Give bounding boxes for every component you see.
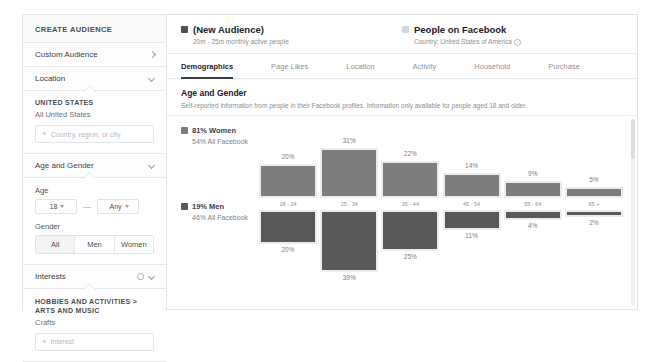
chart-column: 5%65 +2% — [565, 124, 623, 305]
men-bar-benchmark — [443, 210, 501, 230]
women-bar[interactable] — [261, 166, 315, 196]
tab-household[interactable]: Household — [474, 54, 510, 78]
men-bar-group: 2% — [565, 210, 623, 286]
tab-activity[interactable]: Activity — [413, 54, 437, 78]
men-bar[interactable] — [506, 212, 560, 218]
women-bar-benchmark — [320, 148, 378, 198]
section-title: Age and Gender — [181, 88, 623, 98]
chevron-down-icon — [149, 75, 156, 82]
sidebar-section-interests[interactable]: Interests — [23, 265, 166, 289]
chevron-down-icon — [149, 273, 156, 280]
audience-color-swatch — [181, 26, 188, 33]
women-bar-group: 14% — [443, 124, 501, 198]
chevron-down-icon — [149, 162, 156, 169]
chevron-right-icon — [149, 51, 156, 58]
age-max-select[interactable]: Any — [97, 199, 139, 214]
interest-path-line-1: HOBBIES AND ACTIVITIES > — [35, 297, 154, 306]
women-bar-benchmark — [504, 181, 562, 198]
women-bar[interactable] — [506, 183, 560, 196]
gender-option-all[interactable]: All — [36, 236, 75, 253]
age-axis-label: 55 - 64 — [524, 198, 541, 210]
chart-column: 20%18 - 2420% — [259, 124, 317, 305]
women-bar-group: 22% — [381, 124, 439, 198]
age-label: Age — [35, 186, 154, 195]
interest-input[interactable]: + Interest — [35, 333, 154, 351]
women-bar-value: 20% — [281, 154, 294, 161]
interests-label: Interests — [35, 272, 66, 281]
men-bar-benchmark — [320, 210, 378, 272]
location-input[interactable]: + Country, region, or city — [35, 125, 154, 143]
comparison-subtitle-text: Country: United States of America — [414, 38, 512, 45]
women-bar-group: 5% — [565, 124, 623, 198]
interest-input-placeholder: Interest — [51, 338, 74, 345]
comparison-color-swatch — [402, 26, 409, 33]
audience-title-row: (New Audience) — [181, 24, 402, 35]
women-color-swatch — [181, 127, 188, 134]
custom-audience-label: Custom Audience — [35, 50, 98, 59]
men-bar-benchmark — [565, 210, 623, 217]
comparison-title: People on Facebook — [414, 24, 506, 35]
gear-icon[interactable] — [137, 273, 144, 280]
legend-women-subtitle: 54% All Facebook — [181, 138, 248, 145]
age-min-select[interactable]: 18 — [35, 199, 77, 214]
men-bar-benchmark — [504, 210, 562, 220]
age-min-value: 18 — [50, 203, 58, 210]
women-bar[interactable] — [383, 163, 437, 196]
info-icon[interactable]: i — [514, 39, 521, 46]
sidebar-title: CREATE AUDIENCE — [23, 15, 166, 43]
women-bar-value: 5% — [589, 177, 598, 184]
women-bar-value: 22% — [404, 151, 417, 158]
men-bar-value: 39% — [343, 275, 356, 282]
tab-demographics[interactable]: Demographics — [181, 54, 233, 78]
women-bar[interactable] — [322, 150, 376, 196]
location-panel: UNITED STATES All United States + Countr… — [23, 91, 166, 154]
men-color-swatch — [181, 203, 188, 210]
gender-option-men[interactable]: Men — [75, 236, 114, 253]
men-bar-group: 20% — [259, 210, 317, 286]
women-bar-benchmark — [565, 187, 623, 198]
create-audience-sidebar: CREATE AUDIENCE Custom Audience Location… — [23, 15, 167, 309]
age-axis-label: 25 - 34 — [341, 198, 358, 210]
main-panel: (New Audience) 20m - 25m monthly active … — [167, 15, 637, 309]
women-bar-benchmark — [259, 164, 317, 198]
gender-segmented-control: All Men Women — [35, 235, 154, 254]
location-input-placeholder: Country, region, or city — [51, 131, 121, 138]
legend-women-row: 81% Women — [181, 126, 248, 135]
age-axis-label: 35 - 44 — [402, 198, 419, 210]
audience-summary: (New Audience) 20m - 25m monthly active … — [181, 24, 402, 46]
age-max-value: Any — [109, 203, 121, 210]
age-axis-label: 18 - 24 — [279, 198, 296, 210]
legend-men-title: 19% Men — [192, 202, 224, 211]
comparison-summary: People on Facebook Country: United State… — [402, 24, 623, 46]
tab-location[interactable]: Location — [346, 54, 374, 78]
tab-purchase[interactable]: Purchase — [548, 54, 580, 78]
women-bar-group: 31% — [320, 124, 378, 198]
men-bar[interactable] — [383, 212, 437, 249]
caret-down-icon — [125, 205, 129, 208]
men-bar[interactable] — [261, 212, 315, 242]
sidebar-section-custom-audience[interactable]: Custom Audience — [23, 43, 166, 67]
legend-entry-men: 19% Men 46% All Facebook — [181, 202, 248, 221]
women-bar[interactable] — [567, 189, 621, 196]
men-bar[interactable] — [445, 212, 499, 228]
gender-option-women[interactable]: Women — [115, 236, 153, 253]
scrollbar-thumb[interactable] — [631, 119, 635, 159]
men-bar[interactable] — [567, 212, 621, 215]
interest-path-line-2: ARTS AND MUSIC — [35, 306, 154, 315]
chart-scrollbar[interactable] — [631, 119, 635, 306]
audience-insights-window: CREATE AUDIENCE Custom Audience Location… — [22, 14, 638, 310]
chart-column: 14%45 - 5411% — [443, 124, 501, 305]
men-bar-group: 39% — [320, 210, 378, 286]
caret-down-icon — [60, 205, 64, 208]
men-bar-group: 11% — [443, 210, 501, 286]
age-axis-label: 65 + — [589, 198, 600, 210]
sidebar-section-location[interactable]: Location — [23, 67, 166, 91]
men-bar-group: 4% — [504, 210, 562, 286]
women-bar[interactable] — [445, 175, 499, 196]
tab-page-likes[interactable]: Page Likes — [271, 54, 308, 78]
location-label: Location — [35, 74, 65, 83]
chart-legend: 81% Women 54% All Facebook 19% Men 46% A… — [181, 124, 259, 305]
men-bar-value: 2% — [589, 220, 598, 227]
men-bar[interactable] — [322, 212, 376, 270]
sidebar-section-age-gender[interactable]: Age and Gender — [23, 154, 166, 178]
